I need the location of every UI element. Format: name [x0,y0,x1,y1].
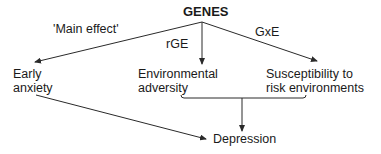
genes-node: GENES [183,4,229,19]
edge-label-rge: rGE [166,37,188,52]
node-environmental-adversity-line2: adversity [138,81,188,96]
node-early-anxiety-line2: anxiety [13,81,53,96]
node-environmental-adversity-line1: Environmental [138,67,218,82]
arrow-anxiety-to-depression [36,95,206,139]
edge-label-main-effect: 'Main effect' [53,22,119,37]
edge-label-gxe: GxE [255,25,279,40]
node-susceptibility-line1: Susceptibility to [266,67,353,82]
node-early-anxiety-line1: Early [13,67,41,82]
node-depression: Depression [213,132,276,147]
node-susceptibility-line2: risk environments [266,81,364,96]
